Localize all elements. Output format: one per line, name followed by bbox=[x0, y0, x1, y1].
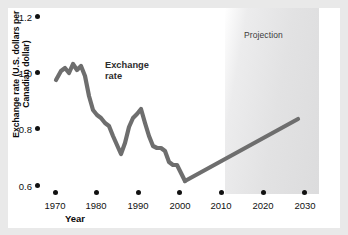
x-tick-label-2010: 2010 bbox=[204, 200, 238, 211]
x-tick-label-2000: 2000 bbox=[163, 200, 197, 211]
series-line-projection bbox=[185, 119, 298, 181]
series-label: Exchange rate bbox=[105, 60, 149, 82]
x-tick-dot-2030 bbox=[302, 190, 307, 195]
x-tick-dot-2020 bbox=[261, 190, 266, 195]
series-line-group bbox=[8, 8, 340, 228]
x-tick-dot-2000 bbox=[177, 190, 182, 195]
x-tick-label-2020: 2020 bbox=[246, 200, 280, 211]
x-tick-label-1980: 1980 bbox=[79, 200, 113, 211]
x-axis-title: Year bbox=[53, 213, 97, 224]
x-tick-dot-1970 bbox=[53, 190, 58, 195]
x-tick-label-1970: 1970 bbox=[38, 200, 72, 211]
x-tick-label-1990: 1990 bbox=[121, 200, 155, 211]
x-tick-label-2030: 2030 bbox=[288, 200, 322, 211]
x-tick-dot-1990 bbox=[136, 190, 141, 195]
x-tick-dot-2010 bbox=[219, 190, 224, 195]
x-tick-dot-1980 bbox=[94, 190, 99, 195]
exchange-rate-chart: Projection 1.2 1.0 0.8 0.6 Exchange rate… bbox=[8, 8, 340, 228]
